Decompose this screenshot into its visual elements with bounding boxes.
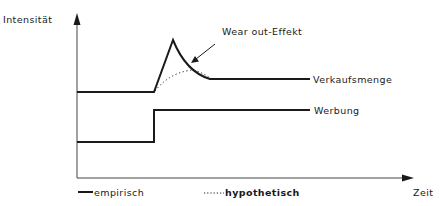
y-axis	[74, 13, 81, 178]
annotation-arrow-icon	[191, 44, 215, 63]
x-axis-label: Zeit	[413, 187, 433, 198]
series-verkaufsmenge-hypothetical-line	[155, 70, 210, 91]
x-axis-arrow-icon	[402, 175, 414, 182]
y-axis-label: Intensität	[3, 14, 52, 25]
legend: empirisch hypothetisch	[78, 187, 300, 198]
legend-label-empirisch: empirisch	[94, 187, 144, 198]
annotation-wear-out: Wear out-Effekt	[222, 26, 302, 37]
chart-canvas: Intensität Zeit Verkaufsmenge Werbung We…	[0, 0, 441, 206]
series-verkaufsmenge-line	[77, 40, 310, 92]
x-axis	[77, 175, 414, 182]
series-label-werbung: Werbung	[314, 105, 360, 116]
series-label-verkaufsmenge: Verkaufsmenge	[313, 74, 392, 85]
y-axis-arrow-icon	[74, 13, 81, 25]
legend-label-hypothetisch: hypothetisch	[225, 187, 300, 198]
series-werbung-line	[77, 110, 310, 142]
